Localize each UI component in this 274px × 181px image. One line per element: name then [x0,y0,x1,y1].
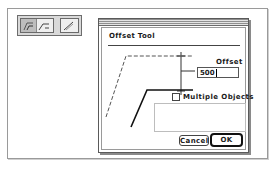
line-tool-button[interactable] [61,19,76,32]
offset-curve-tool-button[interactable] [21,19,36,32]
multiple-objects-checkbox[interactable] [172,93,180,101]
objects-list-box[interactable] [154,103,246,132]
multiple-objects-label: Multiple Objects [183,93,254,101]
diagonal-line-icon [61,19,76,32]
offset-value: 500 [200,69,215,77]
offset-curve-icon [21,19,36,32]
curve-tool-button[interactable] [37,19,52,32]
ok-button[interactable]: OK [210,133,243,147]
cancel-button[interactable]: Cancel [179,135,209,146]
tool-group-curves [20,18,54,33]
curve-icon [37,19,52,32]
multiple-objects-checkbox-row[interactable]: Multiple Objects [172,92,254,101]
offset-tool-dialog: Offset Tool Offset 500 Multiple Objects … [98,18,249,153]
tool-palette [17,15,82,36]
offset-input[interactable]: 500 [197,67,239,78]
text-caret [216,69,217,77]
offset-label: Offset [216,58,243,66]
tool-group-line [60,18,79,33]
